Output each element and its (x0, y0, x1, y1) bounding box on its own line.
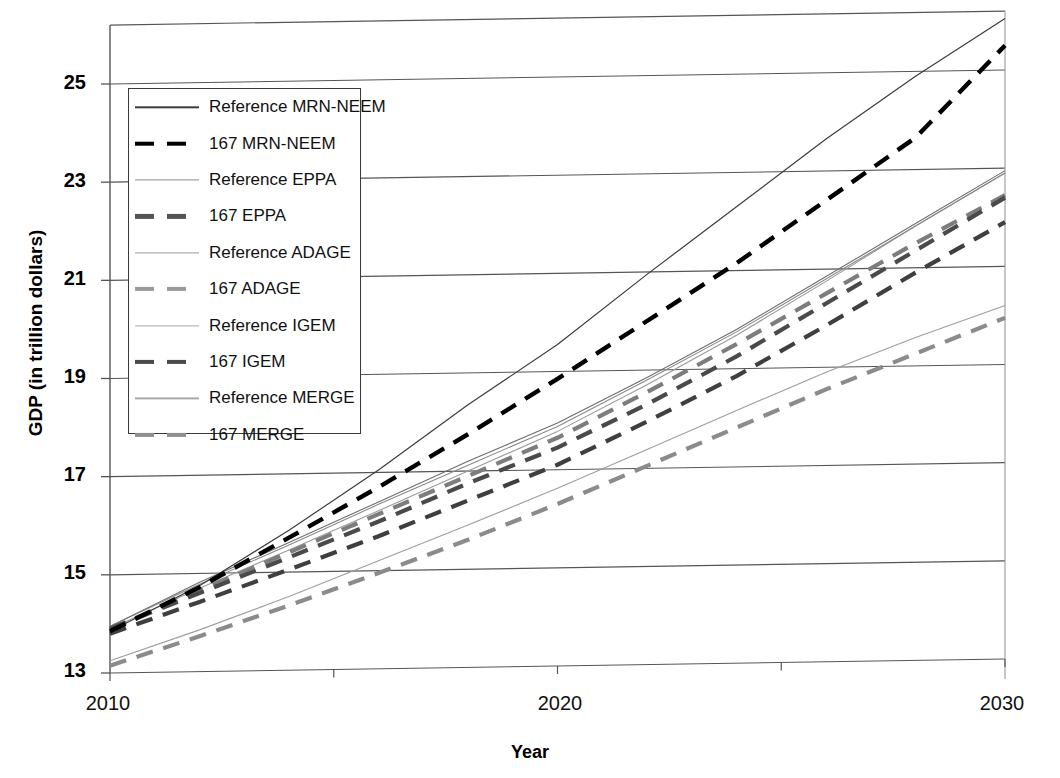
frame-line (110, 11, 1005, 25)
legend-item-label: Reference EPPA (209, 170, 336, 190)
legend-item[interactable]: Reference ADAGE (129, 235, 360, 271)
gridline-25 (110, 70, 1005, 84)
legend-line-swatch-icon (135, 100, 199, 114)
legend-item-label: Reference MRN-NEEM (209, 97, 386, 117)
legend-item[interactable]: Reference MERGE (129, 380, 360, 416)
legend-item-label: Reference MERGE (209, 388, 355, 408)
legend-item-label: 167 MERGE (209, 425, 304, 445)
legend-item[interactable]: Reference EPPA (129, 162, 360, 198)
legend-line-swatch-icon (135, 173, 199, 187)
legend-item[interactable]: 167 IGEM (129, 344, 360, 380)
legend-item[interactable]: Reference IGEM (129, 307, 360, 343)
legend-line-swatch-icon (135, 355, 199, 369)
legend-item-label: 167 EPPA (209, 206, 286, 226)
legend-line-swatch-icon (135, 319, 199, 333)
legend-item[interactable]: 167 MRN-NEEM (129, 125, 360, 161)
legend-item-label: 167 ADAGE (209, 279, 301, 299)
legend-item[interactable]: Reference MRN-NEEM (129, 89, 360, 125)
legend-item[interactable]: 167 ADAGE (129, 271, 360, 307)
legend-item[interactable]: 167 EPPA (129, 198, 360, 234)
legend-item[interactable]: 167 MERGE (129, 417, 360, 453)
legend-line-swatch-icon (135, 428, 199, 442)
legend-item-label: Reference ADAGE (209, 243, 351, 263)
legend: Reference MRN-NEEM167 MRN-NEEMReference … (128, 88, 361, 434)
chart-figure: GDP (in trillion dollars) Year 25 23 21 … (0, 0, 1060, 778)
legend-line-swatch-icon (135, 282, 199, 296)
legend-line-swatch-icon (135, 137, 199, 151)
legend-item-label: Reference IGEM (209, 316, 336, 336)
legend-item-label: 167 MRN-NEEM (209, 134, 336, 154)
legend-line-swatch-icon (135, 209, 199, 223)
legend-line-swatch-icon (135, 246, 199, 260)
legend-line-swatch-icon (135, 391, 199, 405)
legend-item-label: 167 IGEM (209, 352, 286, 372)
